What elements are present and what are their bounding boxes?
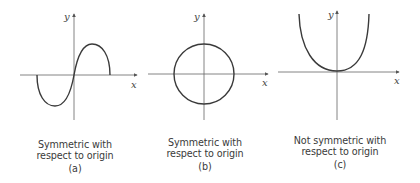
even-curve [299, 14, 369, 71]
x-axis-label: x [262, 77, 268, 88]
caption-line2: respect to origin [166, 148, 243, 159]
caption-a: Symmetric with respect to origin (a) [30, 139, 120, 174]
y-axis-label: y [63, 11, 70, 22]
caption-c: Not symmetric with respect to origin (c) [290, 135, 390, 170]
graph-c: y x [278, 9, 400, 120]
graph-a: y x [20, 11, 137, 120]
caption-line1: Symmetric with [38, 139, 112, 150]
x-axis-label: x [131, 79, 137, 90]
y-axis-label: y [327, 9, 334, 20]
caption-line2: respect to origin [301, 146, 378, 157]
graph-b: y x [148, 11, 268, 120]
x-axis-label: x [394, 75, 400, 86]
caption-line2: respect to origin [36, 150, 113, 161]
figure-tag: (a) [30, 163, 120, 174]
caption-line1: Symmetric with [168, 137, 242, 148]
caption-line1: Not symmetric with [294, 135, 386, 146]
figure-tag: (b) [160, 161, 250, 172]
y-axis-label: y [193, 11, 200, 22]
caption-b: Symmetric with respect to origin (b) [160, 137, 250, 172]
figure-tag: (c) [290, 159, 390, 170]
